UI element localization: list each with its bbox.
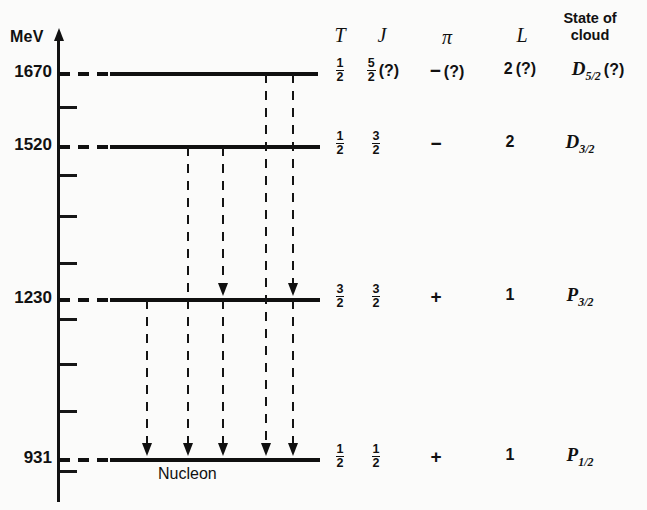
fraction-numerator: 1: [336, 443, 345, 456]
cell-state-1520: D3/2: [545, 131, 615, 157]
level-lead-dash-1230: [59, 298, 111, 302]
nucleon-label: Nucleon: [158, 465, 217, 483]
cell-J-1230: 3 2: [354, 284, 398, 311]
fraction-denominator: 2: [372, 456, 381, 470]
L-value: 2: [504, 60, 513, 77]
transition-1230-to-931: [146, 300, 148, 443]
transition-arrowhead: [142, 443, 152, 456]
state-subscript: 5/2: [585, 69, 600, 83]
transition-1230-to-931-b: [222, 300, 224, 443]
axis-tick: [60, 410, 77, 413]
fraction-numerator: 1: [336, 130, 345, 143]
column-header-L: L: [500, 24, 544, 47]
L-value: 1: [506, 446, 515, 463]
parity-sign: +: [430, 286, 441, 307]
fraction: 1 2: [336, 57, 345, 84]
transition-1520-to-931: [187, 147, 189, 443]
fraction-denominator: 2: [367, 70, 376, 84]
L-value: 2: [506, 133, 515, 150]
axis-title-mev: MeV: [10, 28, 44, 46]
cell-L-1520: 2: [488, 133, 532, 151]
uncertainty-flag: (?): [516, 60, 536, 77]
cell-parity-1230: +: [414, 286, 458, 308]
uncertainty-flag: (?): [444, 63, 464, 80]
uncertainty-flag: (?): [379, 62, 399, 79]
fraction-denominator: 2: [336, 296, 345, 310]
state-letter: P: [567, 284, 579, 305]
axis-tick: [60, 318, 77, 321]
transition-arrowhead: [261, 443, 271, 456]
fraction: 1 2: [336, 130, 345, 157]
cell-state-1670: D5/2(?): [549, 58, 647, 84]
level-lead-dash-931: [59, 458, 111, 462]
energy-label-1670: 1670: [0, 62, 52, 82]
state-header-line2: cloud: [571, 27, 610, 43]
axis-tick: [60, 106, 77, 109]
transition-1670-to-1230: [292, 74, 294, 283]
axis-tick: [60, 470, 77, 473]
cell-state-1230: P3/2: [545, 284, 615, 310]
parity-sign: −: [430, 133, 441, 154]
fraction-denominator: 2: [336, 70, 345, 84]
state-subscript: 3/2: [579, 142, 594, 156]
level-line-931: [110, 458, 320, 462]
transition-arrowhead: [288, 283, 298, 296]
axis-arrow-icon: [54, 28, 64, 41]
transition-arrowhead: [218, 283, 228, 296]
transition-1520-to-1230: [222, 147, 224, 283]
transition-arrowhead: [183, 443, 193, 456]
column-header-pi: π: [425, 26, 469, 49]
cell-L-1670: 2(?): [487, 60, 553, 78]
cell-J-1520: 3 2: [354, 131, 398, 158]
cell-parity-1670: −(?): [414, 60, 480, 82]
axis-tick: [60, 215, 77, 218]
cell-parity-1520: −: [414, 133, 458, 155]
fraction-denominator: 2: [336, 456, 345, 470]
fraction-denominator: 2: [372, 296, 381, 310]
state-header-line1: State of: [563, 10, 616, 26]
fraction-denominator: 2: [372, 143, 381, 157]
fraction-numerator: 3: [372, 283, 381, 296]
fraction: 1 2: [372, 443, 381, 470]
cell-state-931: P1/2: [545, 444, 615, 470]
state-letter: D: [565, 131, 579, 152]
cell-J-931: 1 2: [354, 444, 398, 471]
state-letter: P: [567, 444, 579, 465]
cell-parity-931: +: [414, 446, 458, 468]
fraction: 3 2: [372, 130, 381, 157]
level-line-1230: [110, 298, 320, 302]
cell-J-1670: 5 2 (?): [354, 58, 412, 85]
state-subscript: 3/2: [578, 295, 593, 309]
fraction-numerator: 1: [372, 443, 381, 456]
state-letter: D: [572, 58, 586, 79]
level-lead-dash-1670: [59, 72, 111, 76]
cell-L-1230: 1: [488, 286, 532, 304]
parity-sign: +: [430, 446, 441, 467]
energy-level-diagram: MeV 1670 1520 1230 931 Nucleon T J π L: [0, 0, 647, 510]
parity-sign: −: [430, 60, 441, 81]
fraction-numerator: 3: [372, 130, 381, 143]
transition-1230-to-931-c: [292, 300, 294, 443]
axis-tick: [60, 262, 77, 265]
uncertainty-flag: (?): [604, 61, 624, 78]
column-header-state-of-cloud: State of cloud: [540, 10, 640, 44]
fraction: 3 2: [336, 283, 345, 310]
level-lead-dash-1520: [59, 145, 111, 149]
state-subscript: 1/2: [578, 455, 593, 469]
column-header-J: J: [360, 24, 404, 47]
transition-1670-to-931: [265, 74, 267, 443]
fraction-numerator: 3: [336, 283, 345, 296]
axis-tick: [60, 363, 77, 366]
fraction-numerator: 5: [367, 57, 376, 70]
column-header-T: T: [318, 24, 362, 47]
transition-arrowhead: [218, 443, 228, 456]
fraction-denominator: 2: [336, 143, 345, 157]
cell-L-931: 1: [488, 446, 532, 464]
axis-tick: [60, 174, 77, 177]
energy-label-1230: 1230: [0, 288, 52, 308]
L-value: 1: [506, 286, 515, 303]
fraction: 1 2: [336, 443, 345, 470]
energy-label-1520: 1520: [0, 135, 52, 155]
energy-axis-line: [57, 40, 60, 502]
level-line-1520: [110, 145, 320, 149]
